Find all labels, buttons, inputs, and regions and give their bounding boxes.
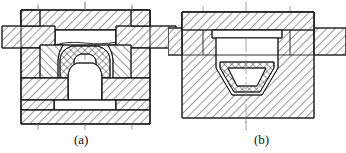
lower-die-left: [21, 78, 68, 100]
drawing-canvas: (a) (b): [0, 0, 346, 153]
figure-b: [168, 0, 346, 130]
lower-die-right: [102, 78, 150, 100]
die-insert-right: [108, 45, 131, 78]
ejector-side-right: [116, 100, 150, 110]
figure-a: [0, 0, 178, 130]
left-side-plate: [168, 28, 182, 55]
ejector-side-left: [21, 100, 54, 110]
ejector-plug: [68, 63, 102, 100]
figure-a-section-view: [0, 0, 178, 130]
figure-b-caption: (b): [254, 132, 269, 148]
figure-a-caption: (a): [74, 132, 88, 148]
right-side-plate: [314, 28, 346, 55]
top-cover-plate: [182, 12, 314, 30]
ejector-pin: [54, 100, 116, 110]
cover-plate-recess: [212, 30, 282, 38]
figure-b-section-view: [168, 0, 346, 130]
bottom-base-plate: [21, 110, 150, 124]
